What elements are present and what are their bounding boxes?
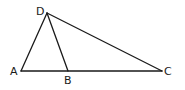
vertex-label-c: C (164, 65, 172, 78)
vertex-label-d: D (36, 5, 44, 18)
segment-AD (21, 13, 47, 71)
vertex-label-a: A (10, 65, 18, 78)
vertex-label-b: B (64, 74, 72, 87)
triangle-diagram: A B C D (0, 0, 185, 90)
